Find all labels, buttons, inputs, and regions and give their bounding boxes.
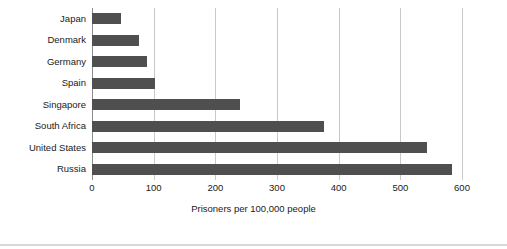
bar-spain (92, 78, 155, 89)
bottom-divider (0, 244, 507, 246)
x-tick-label-200: 200 (207, 182, 223, 193)
category-label-spain: Spain (62, 77, 86, 88)
x-axis-tick-labels: 0100200300400500600 (92, 182, 462, 196)
bar-russia (92, 164, 452, 175)
category-label-denmark: Denmark (47, 34, 86, 45)
category-label-united-states: United States (29, 142, 86, 153)
bar-singapore (92, 99, 240, 110)
bar-row (92, 8, 462, 30)
bar-row (92, 94, 462, 116)
bar-japan (92, 13, 121, 24)
category-axis-labels: JapanDenmarkGermanySpainSingaporeSouth A… (0, 8, 86, 180)
x-tick-label-600: 600 (454, 182, 470, 193)
bar-row (92, 159, 462, 181)
x-tick-label-300: 300 (269, 182, 285, 193)
x-axis-line (92, 180, 463, 181)
category-label-south-africa: South Africa (35, 120, 86, 131)
category-label-germany: Germany (47, 56, 86, 67)
category-label-singapore: Singapore (43, 99, 86, 110)
bar-row (92, 73, 462, 95)
bar-row (92, 137, 462, 159)
x-axis-title: Prisoners per 100,000 people (0, 203, 507, 214)
bar-germany (92, 56, 147, 67)
category-label-japan: Japan (60, 13, 86, 24)
bar-chart-figure: JapanDenmarkGermanySpainSingaporeSouth A… (0, 0, 507, 249)
x-tick-label-400: 400 (331, 182, 347, 193)
bar-row (92, 116, 462, 138)
x-tick-label-500: 500 (392, 182, 408, 193)
category-label-russia: Russia (57, 163, 86, 174)
gridline-600 (462, 8, 463, 180)
bar-south-africa (92, 121, 324, 132)
bar-row (92, 51, 462, 73)
bar-denmark (92, 35, 139, 46)
bar-united-states (92, 142, 427, 153)
plot-area (92, 8, 462, 180)
bar-row (92, 30, 462, 52)
x-tick-label-0: 0 (89, 182, 94, 193)
x-tick-label-100: 100 (146, 182, 162, 193)
